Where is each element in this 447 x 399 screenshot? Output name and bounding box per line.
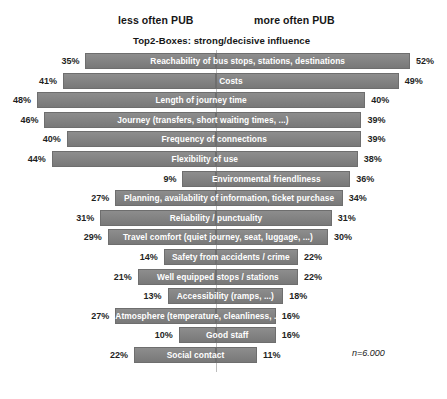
- bar-row: Journey (transfers, short waiting times,…: [0, 111, 447, 130]
- value-label-left: 9%: [134, 171, 176, 187]
- bar-left: [85, 53, 216, 69]
- bar-left: [52, 151, 216, 167]
- bar-row: Reliability / punctuality31%31%: [0, 209, 447, 228]
- value-label-right: 52%: [416, 53, 447, 69]
- bar-left: [37, 92, 216, 108]
- bar-left: [67, 131, 216, 147]
- value-label-right: 18%: [289, 288, 331, 304]
- bar-row: Atmosphere (temperature, cleanliness, ..…: [0, 307, 447, 326]
- bar-right: [216, 327, 276, 343]
- bar-right: [216, 229, 328, 245]
- value-label-left: 27%: [67, 308, 109, 324]
- bar-row: Frequency of connections40%39%: [0, 130, 447, 149]
- bar-right: [216, 190, 343, 206]
- legend-label-more-often-pub: more often PUB: [254, 14, 335, 26]
- bar-left: [108, 229, 216, 245]
- sample-size-annotation: n=6.000: [352, 348, 385, 358]
- bar-row: Flexibility of use44%38%: [0, 150, 447, 169]
- value-label-left: 14%: [116, 249, 158, 265]
- bar-row: Costs41%49%: [0, 72, 447, 91]
- bar-right: [216, 308, 276, 324]
- value-label-right: 16%: [282, 308, 324, 324]
- bar-left: [182, 171, 216, 187]
- value-label-right: 36%: [356, 171, 398, 187]
- legend-label-less-often-pub: less often PUB: [118, 14, 194, 26]
- bar-row: Good staff10%16%: [0, 326, 447, 345]
- chart-title: Top2-Boxes: strong/decisive influence: [133, 35, 310, 46]
- plot-area: Reachability of bus stops, stations, des…: [0, 50, 447, 380]
- bar-row: Travel comfort (quiet journey, seat, lug…: [0, 228, 447, 247]
- value-label-left: 22%: [86, 347, 128, 363]
- bar-left: [179, 327, 216, 343]
- value-label-left: 13%: [120, 288, 162, 304]
- bar-right: [216, 73, 399, 89]
- bar-row: Environmental friendliness9%36%: [0, 170, 447, 189]
- value-label-left: 10%: [131, 327, 173, 343]
- bar-left: [115, 190, 216, 206]
- bar-row: Well equipped stops / stations21%22%: [0, 268, 447, 287]
- value-label-right: 22%: [304, 269, 346, 285]
- bar-right: [216, 151, 358, 167]
- value-label-right: 16%: [282, 327, 324, 343]
- bar-right: [216, 210, 332, 226]
- diverging-bar-chart: less often PUB more often PUB Top2-Boxes…: [0, 0, 447, 399]
- bar-right: [216, 288, 283, 304]
- value-label-left: 35%: [37, 53, 79, 69]
- bar-left: [115, 308, 216, 324]
- bar-right: [216, 131, 361, 147]
- bar-left: [168, 288, 216, 304]
- bar-left: [44, 112, 216, 128]
- bar-row: Length of journey time48%40%: [0, 91, 447, 110]
- value-label-left: 44%: [4, 151, 46, 167]
- value-label-left: 41%: [15, 73, 57, 89]
- bar-right: [216, 171, 350, 187]
- bar-row: Planning, availability of information, t…: [0, 189, 447, 208]
- value-label-right: 49%: [405, 73, 447, 89]
- value-label-left: 29%: [60, 229, 102, 245]
- value-label-right: 38%: [364, 151, 406, 167]
- bar-row: Accessibility (ramps, ...)13%18%: [0, 287, 447, 306]
- value-label-right: 30%: [334, 229, 376, 245]
- bar-right: [216, 249, 298, 265]
- bar-left: [134, 347, 216, 363]
- bar-left: [63, 73, 216, 89]
- bar-right: [216, 92, 365, 108]
- bar-right: [216, 347, 257, 363]
- value-label-left: 48%: [0, 92, 31, 108]
- value-label-right: 39%: [367, 131, 409, 147]
- value-label-right: 39%: [367, 112, 409, 128]
- value-label-left: 21%: [90, 269, 132, 285]
- bar-left: [164, 249, 216, 265]
- value-label-left: 46%: [0, 112, 38, 128]
- bar-right: [216, 269, 298, 285]
- bar-right: [216, 112, 361, 128]
- value-label-left: 27%: [67, 190, 109, 206]
- value-label-right: 40%: [371, 92, 413, 108]
- value-label-right: 22%: [304, 249, 346, 265]
- bar-row: Safety from accidents / crime14%22%: [0, 248, 447, 267]
- bar-right: [216, 53, 410, 69]
- chart-legend: less often PUB more often PUB: [0, 14, 447, 30]
- value-label-right: 11%: [263, 347, 305, 363]
- value-label-left: 40%: [19, 131, 61, 147]
- bar-left: [138, 269, 216, 285]
- value-label-right: 34%: [349, 190, 391, 206]
- bar-row: Reachability of bus stops, stations, des…: [0, 52, 447, 71]
- value-label-right: 31%: [338, 210, 380, 226]
- value-label-left: 31%: [52, 210, 94, 226]
- bar-left: [100, 210, 216, 226]
